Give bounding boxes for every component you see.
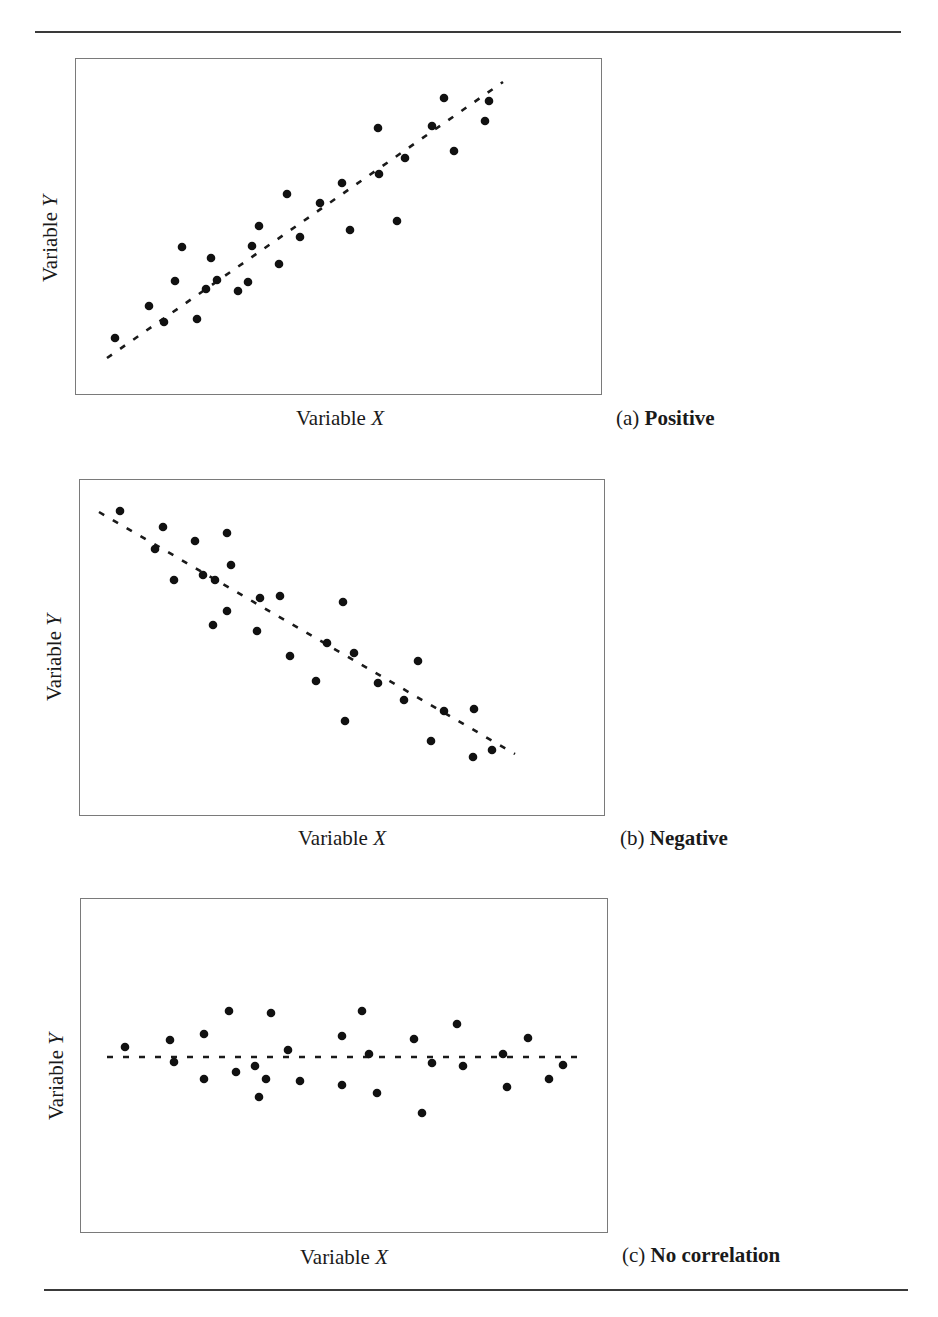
data-point	[223, 529, 232, 538]
data-point	[283, 190, 292, 199]
data-point	[410, 1035, 419, 1044]
data-point	[234, 287, 243, 296]
data-point	[469, 753, 478, 762]
data-point	[323, 639, 332, 648]
data-point	[393, 217, 402, 226]
data-point	[200, 1030, 209, 1039]
data-point	[296, 233, 305, 242]
data-point	[316, 199, 325, 208]
data-point	[225, 1007, 234, 1016]
data-point	[418, 1109, 427, 1118]
data-point	[121, 1043, 130, 1052]
data-point	[171, 277, 180, 286]
data-point	[559, 1061, 568, 1070]
data-point	[151, 545, 160, 554]
data-point	[428, 1059, 437, 1068]
data-point	[358, 1007, 367, 1016]
data-point	[200, 1075, 209, 1084]
data-point	[209, 621, 218, 630]
data-point	[145, 302, 154, 311]
data-point	[286, 652, 295, 661]
data-point	[453, 1020, 462, 1029]
data-point	[256, 594, 265, 603]
data-point	[488, 746, 497, 755]
data-point	[244, 278, 253, 287]
data-point	[193, 315, 202, 324]
scatter-positive	[107, 82, 503, 358]
data-point	[338, 179, 347, 188]
data-point	[400, 696, 409, 705]
scatter-no-correlation	[107, 1007, 585, 1118]
trend-line	[107, 82, 503, 358]
data-point	[227, 561, 236, 570]
data-point	[275, 260, 284, 269]
data-point	[253, 627, 262, 636]
data-point	[213, 276, 222, 285]
data-point	[470, 705, 479, 714]
data-point	[116, 507, 125, 516]
scatter-plots	[0, 0, 938, 1317]
data-point	[503, 1083, 512, 1092]
data-point	[166, 1036, 175, 1045]
data-point	[375, 170, 384, 179]
data-point	[207, 254, 216, 263]
data-point	[499, 1050, 508, 1059]
data-point	[524, 1034, 533, 1043]
data-point	[339, 598, 348, 607]
data-point	[414, 657, 423, 666]
data-point	[545, 1075, 554, 1084]
data-point	[262, 1075, 271, 1084]
data-point	[255, 1093, 264, 1102]
scatter-negative	[99, 507, 515, 762]
data-point	[338, 1032, 347, 1041]
data-point	[276, 592, 285, 601]
data-point	[255, 222, 264, 231]
data-point	[427, 737, 436, 746]
trend-line	[99, 512, 515, 754]
data-point	[170, 576, 179, 585]
data-point	[111, 334, 120, 343]
data-point	[338, 1081, 347, 1090]
data-point	[232, 1068, 241, 1077]
data-point	[312, 677, 321, 686]
data-point	[365, 1050, 374, 1059]
data-point	[485, 97, 494, 106]
data-point	[191, 537, 200, 546]
data-point	[346, 226, 355, 235]
data-point	[223, 607, 232, 616]
data-point	[350, 649, 359, 658]
data-point	[202, 285, 211, 294]
data-point	[428, 122, 437, 131]
data-point	[373, 1089, 382, 1098]
data-point	[341, 717, 350, 726]
data-point	[248, 242, 257, 251]
data-point	[160, 318, 169, 327]
data-point	[251, 1062, 260, 1071]
data-point	[284, 1046, 293, 1055]
data-point	[440, 94, 449, 103]
data-point	[296, 1077, 305, 1086]
data-point	[401, 154, 410, 163]
data-point	[211, 576, 220, 585]
data-point	[159, 523, 168, 532]
data-point	[459, 1062, 468, 1071]
data-point	[170, 1058, 179, 1067]
data-point	[199, 571, 208, 580]
data-point	[178, 243, 187, 252]
data-point	[374, 679, 383, 688]
data-point	[481, 117, 490, 126]
data-point	[374, 124, 383, 133]
data-point	[450, 147, 459, 156]
data-point	[267, 1009, 276, 1018]
data-point	[440, 707, 449, 716]
